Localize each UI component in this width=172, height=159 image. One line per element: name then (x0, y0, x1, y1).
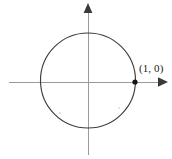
y-axis-arrow-icon (84, 3, 93, 13)
scan-speck (59, 112, 61, 114)
unit-circle-figure: (1, 0) (0, 0, 172, 159)
point-label-1-0: (1, 0) (139, 63, 163, 74)
coordinate-plane-svg (0, 0, 172, 159)
point-marker-1-0 (132, 79, 137, 84)
x-axis-arrow-icon (158, 77, 168, 87)
scan-speck (118, 107, 120, 109)
